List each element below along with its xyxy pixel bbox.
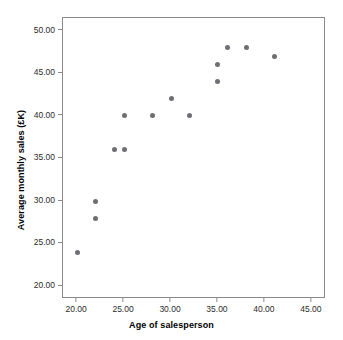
data-point <box>225 45 230 50</box>
x-axis-tick-mark <box>216 298 217 302</box>
x-axis-tick-label: 25.00 <box>112 305 133 314</box>
data-point <box>122 113 127 118</box>
y-axis-tick-label: 40.00 <box>34 111 58 120</box>
y-axis-tick-mark <box>58 29 62 30</box>
data-point <box>244 45 249 50</box>
x-axis-tick-label: 45.00 <box>300 305 321 314</box>
x-axis-tick-mark <box>310 298 311 302</box>
x-axis-tick-label: 40.00 <box>253 305 274 314</box>
x-axis-tick: 20.00 <box>65 298 86 314</box>
x-axis-tick-label: 20.00 <box>65 305 86 314</box>
x-axis-tick: 40.00 <box>253 298 274 314</box>
data-point <box>122 147 127 152</box>
x-axis-tick-label: 30.00 <box>159 305 180 314</box>
data-point <box>215 62 220 67</box>
x-axis-tick: 25.00 <box>112 298 133 314</box>
data-points-layer <box>63 18 324 297</box>
y-axis-tick-label: 30.00 <box>34 196 58 205</box>
data-point <box>112 147 117 152</box>
data-point <box>187 113 192 118</box>
x-axis: 20.0025.0030.0035.0040.0045.00 <box>0 298 343 322</box>
y-axis-tick-mark <box>58 72 62 73</box>
data-point <box>150 113 155 118</box>
x-axis-tick-mark <box>76 298 77 302</box>
x-axis-tick: 30.00 <box>159 298 180 314</box>
data-point <box>272 54 277 59</box>
y-axis-tick-label: 50.00 <box>34 26 58 35</box>
y-axis-tick-mark <box>58 242 62 243</box>
y-axis-tick-mark <box>58 114 62 115</box>
x-axis-tick: 45.00 <box>300 298 321 314</box>
plot-area <box>62 17 325 298</box>
y-axis-tick-label: 45.00 <box>34 68 58 77</box>
x-axis-tick-mark <box>170 298 171 302</box>
data-point <box>93 216 98 221</box>
x-axis-title: Age of salesperson <box>0 320 343 330</box>
y-axis-tick-label: 35.00 <box>34 153 58 162</box>
data-point <box>75 250 80 255</box>
x-axis-tick-label: 35.00 <box>206 305 227 314</box>
y-axis-tick-mark <box>58 285 62 286</box>
data-point <box>169 96 174 101</box>
data-point <box>93 199 98 204</box>
y-axis-tick-mark <box>58 200 62 201</box>
data-point <box>215 79 220 84</box>
y-axis-tick-label: 25.00 <box>34 238 58 247</box>
scatter-chart: 20.0025.0030.0035.0040.0045.0050.00 20.0… <box>0 0 343 340</box>
x-axis-tick-mark <box>263 298 264 302</box>
x-axis-tick-mark <box>123 298 124 302</box>
y-axis-tick-label: 20.00 <box>34 281 58 290</box>
y-axis-title: Average monthly sales (£K) <box>16 0 32 340</box>
y-axis-tick-mark <box>58 157 62 158</box>
x-axis-tick: 35.00 <box>206 298 227 314</box>
